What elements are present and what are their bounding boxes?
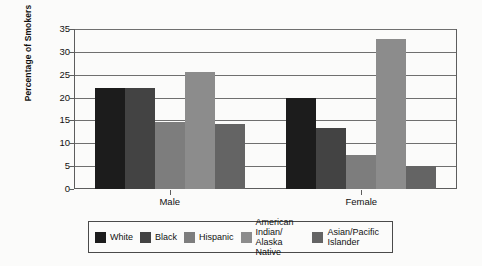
legend-item[interactable]: Hispanic: [184, 232, 234, 243]
bar: [316, 128, 346, 189]
bar: [155, 122, 185, 189]
y-axis-tick-label: 10: [44, 137, 70, 148]
bar: [286, 98, 316, 189]
legend-label: American Indian/ Alaska Native: [256, 217, 306, 257]
legend-item[interactable]: White: [95, 232, 133, 243]
y-axis-tick-label: 30: [44, 46, 70, 57]
y-axis-tick-mark: [69, 189, 74, 190]
y-axis-tick-label: 15: [44, 114, 70, 125]
legend: WhiteBlackHispanicAmerican Indian/ Alask…: [88, 221, 393, 253]
y-axis-tick-group: 05101520253035: [40, 29, 70, 189]
x-axis-category-label: Male: [130, 196, 210, 207]
y-axis-title: Percentage of Smokers: [23, 0, 33, 123]
y-axis-tick-label: 20: [44, 92, 70, 103]
legend-label: Asian/Pacific Islander: [327, 227, 379, 247]
smoking-prevalence-bar-chart: Percentage of Smokers 05101520253035 Mal…: [0, 0, 482, 266]
y-axis-tick-label: 0: [44, 183, 70, 194]
legend-swatch-icon: [184, 232, 195, 243]
bar: [125, 88, 155, 189]
bar: [406, 166, 436, 189]
x-axis-tick-mark: [170, 190, 171, 195]
bar: [376, 39, 406, 189]
legend-swatch-icon: [95, 232, 106, 243]
legend-label: Hispanic: [199, 232, 234, 242]
bar: [346, 155, 376, 189]
legend-swatch-icon: [241, 232, 252, 243]
x-axis-category-label: Female: [321, 196, 401, 207]
legend-swatch-icon: [140, 232, 151, 243]
y-axis-tick-label: 5: [44, 160, 70, 171]
legend-item[interactable]: Black: [140, 232, 177, 243]
bar: [215, 124, 245, 189]
legend-label: White: [110, 232, 133, 242]
legend-item[interactable]: American Indian/ Alaska Native: [241, 217, 306, 257]
x-axis-tick-mark: [361, 190, 362, 195]
bar: [185, 72, 215, 189]
legend-item[interactable]: Asian/Pacific Islander: [312, 227, 379, 247]
y-axis-tick-label: 25: [44, 69, 70, 80]
bar-group-layer: [74, 29, 457, 189]
legend-swatch-icon: [312, 232, 323, 243]
y-axis-tick-label: 35: [44, 23, 70, 34]
legend-label: Black: [155, 232, 177, 242]
bar: [95, 88, 125, 189]
